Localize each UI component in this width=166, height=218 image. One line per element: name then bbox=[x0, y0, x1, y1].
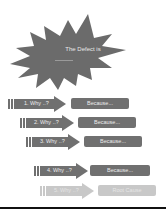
why-row-3: 3. Why ..? Because... bbox=[0, 134, 166, 150]
why-label-1: 1. Why ..? bbox=[24, 100, 49, 106]
because-box-2: Because... bbox=[78, 117, 136, 128]
why-row-1: 1. Why ..? Because... bbox=[0, 96, 166, 112]
why-row-5: 5. Why ..? Root Cause bbox=[0, 183, 166, 199]
defect-label: The Defect is bbox=[0, 46, 166, 52]
why-row-4: 4. Why ..? Because... bbox=[0, 163, 166, 179]
why-label-2: 2. Why ..? bbox=[34, 119, 59, 125]
why-label-5: 5. Why ..? bbox=[54, 187, 79, 193]
why-label-4: 4. Why ..? bbox=[47, 167, 72, 173]
because-box-3: Because... bbox=[84, 136, 142, 147]
bottom-divider bbox=[0, 207, 166, 209]
why-label-3: 3. Why ..? bbox=[40, 138, 65, 144]
why-row-2: 2. Why ..? Because... bbox=[0, 115, 166, 131]
because-box-4: Because... bbox=[90, 165, 150, 176]
defect-underline bbox=[55, 60, 73, 61]
root-cause-box: Root Cause bbox=[98, 185, 156, 196]
defect-starburst-icon bbox=[8, 12, 130, 92]
because-box-1: Because... bbox=[71, 98, 129, 109]
